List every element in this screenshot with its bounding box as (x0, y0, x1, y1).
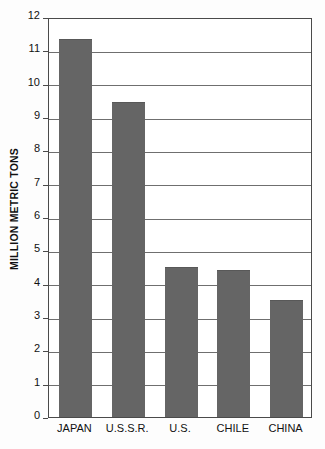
y-axis-tick-label: 9 (34, 110, 40, 121)
y-axis-tick-label: 7 (34, 177, 40, 188)
x-axis-label: CHILE (217, 421, 249, 435)
y-axis-tick-label: 1 (34, 377, 40, 388)
y-axis-tick-label: 8 (34, 143, 40, 154)
bar-chile (217, 270, 250, 417)
bar-u-s-s-r (112, 102, 145, 417)
bar-chart: MILLION METRIC TONS 0123456789101112 JAP… (0, 0, 325, 449)
bar-china (270, 300, 303, 417)
y-axis-tick-label: 6 (34, 210, 40, 221)
y-axis-tick-mark (43, 418, 48, 419)
bar-japan (59, 39, 92, 417)
y-axis-tick-label: 5 (34, 243, 40, 254)
y-axis-tick-label: 2 (34, 343, 40, 354)
y-axis-tick-label: 12 (28, 10, 40, 21)
y-axis-tick-label: 3 (34, 310, 40, 321)
x-axis-label: U.S.S.R. (106, 421, 149, 435)
y-axis-tick-label: 11 (29, 43, 40, 54)
y-axis-tick-label: 10 (28, 77, 40, 88)
x-axis-label: U.S. (169, 421, 190, 435)
x-axis-labels: JAPANU.S.S.R.U.S.CHILECHINA (48, 421, 312, 443)
plot-area (48, 18, 312, 418)
bar-u-s (165, 267, 198, 417)
bars (49, 19, 311, 417)
y-axis-tick-label: 4 (34, 277, 40, 288)
y-axis-tick-label: 0 (34, 410, 40, 421)
y-axis-ticks: 0123456789101112 (0, 18, 48, 418)
x-axis-label: CHINA (268, 421, 302, 435)
x-axis-label: JAPAN (57, 421, 92, 435)
